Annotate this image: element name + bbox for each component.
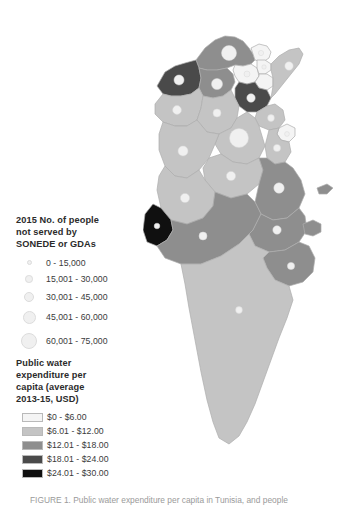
symbol-tozeur[interactable] bbox=[154, 223, 160, 229]
legend-circles-rows: 0 - 15,000 15,001 - 30,000 30,001 - 45,0… bbox=[16, 255, 144, 353]
symbol-jendouba[interactable] bbox=[174, 75, 184, 85]
legend-item-label: 60,001 - 75,000 bbox=[42, 336, 108, 346]
symbol-monastir[interactable] bbox=[285, 132, 290, 137]
symbol-sidi-bouzid[interactable] bbox=[226, 171, 235, 180]
legend-water-expenditure: Public water expenditure per capita (ave… bbox=[16, 357, 144, 480]
color-swatch-icon bbox=[22, 455, 43, 464]
legend-item-label: $6.01 - $12.00 bbox=[43, 426, 104, 436]
circle-icon bbox=[23, 311, 36, 324]
color-swatch-icon bbox=[22, 469, 43, 478]
legend-item[interactable]: 30,001 - 45,000 bbox=[16, 287, 144, 306]
symbol-nabeul[interactable] bbox=[285, 62, 293, 70]
legend-item-label: 45,001 - 60,000 bbox=[42, 312, 108, 322]
symbol-medenine[interactable] bbox=[287, 262, 294, 269]
symbol-bizerte[interactable] bbox=[222, 46, 237, 61]
legend-item[interactable]: $24.01 - $30.00 bbox=[16, 466, 144, 480]
circle-icon bbox=[25, 275, 33, 283]
color-swatch-icon bbox=[22, 413, 43, 422]
symbol-sfax[interactable] bbox=[274, 183, 284, 193]
tunisia-choropleth-map[interactable] bbox=[143, 8, 349, 480]
legend-item[interactable]: $12.01 - $18.00 bbox=[16, 438, 144, 452]
legend-item[interactable]: $18.01 - $24.00 bbox=[16, 452, 144, 466]
circle-symbol-slot bbox=[16, 311, 42, 324]
symbol-zaghouan[interactable] bbox=[247, 94, 255, 102]
circle-symbol-slot bbox=[16, 292, 42, 302]
symbol-kef[interactable] bbox=[173, 106, 182, 115]
figure-container: 2015 No. of people not served by SONEDE … bbox=[0, 0, 349, 505]
color-swatch-icon bbox=[22, 441, 43, 450]
legend-item-label: $18.01 - $24.00 bbox=[43, 454, 109, 464]
symbol-tataouine[interactable] bbox=[236, 307, 243, 314]
symbol-manouba[interactable] bbox=[244, 71, 250, 77]
map-svg bbox=[143, 8, 349, 480]
symbol-tunis[interactable] bbox=[262, 65, 266, 69]
circle-icon bbox=[27, 260, 32, 265]
circle-symbol-slot bbox=[16, 333, 42, 349]
legend-item-label: 15,001 - 30,000 bbox=[42, 274, 108, 284]
legend-item-label: $12.01 - $18.00 bbox=[43, 440, 109, 450]
symbol-ariana[interactable] bbox=[258, 50, 263, 55]
circle-icon bbox=[21, 333, 37, 349]
legend-item-label: 30,001 - 45,000 bbox=[42, 292, 108, 302]
symbol-gafsa[interactable] bbox=[180, 193, 189, 202]
symbol-gabes[interactable] bbox=[273, 226, 281, 234]
legend-choropleth-rows: $0 - $6.00 $6.01 - $12.00 $12.01 - $18.0… bbox=[16, 410, 144, 480]
legend-item[interactable]: 45,001 - 60,000 bbox=[16, 306, 144, 328]
legend-item-label: $0 - $6.00 bbox=[43, 412, 87, 422]
symbol-siliana[interactable] bbox=[213, 109, 221, 117]
legend-item[interactable]: 60,001 - 75,000 bbox=[16, 328, 144, 353]
symbol-beja[interactable] bbox=[212, 79, 223, 90]
symbol-sousse[interactable] bbox=[268, 115, 275, 122]
figure-caption: FIGURE 1. Public water expenditure per c… bbox=[30, 495, 340, 505]
symbol-mahdia[interactable] bbox=[273, 144, 280, 151]
color-swatch-icon bbox=[22, 427, 43, 436]
legend-population-not-served: 2015 No. of people not served by SONEDE … bbox=[16, 214, 144, 353]
legend-item-label: 0 - 15,000 bbox=[42, 258, 86, 268]
legend-item[interactable]: $6.01 - $12.00 bbox=[16, 424, 144, 438]
legend-circles-title: 2015 No. of people not served by SONEDE … bbox=[16, 214, 144, 250]
circle-symbol-slot bbox=[16, 260, 42, 265]
legend-choropleth-title: Public water expenditure per capita (ave… bbox=[16, 357, 144, 405]
circle-icon bbox=[24, 292, 34, 302]
circle-symbol-slot bbox=[16, 275, 42, 283]
symbol-kairouan[interactable] bbox=[230, 129, 249, 148]
symbol-kebili[interactable] bbox=[199, 232, 207, 240]
legend-item-label: $24.01 - $30.00 bbox=[43, 468, 109, 478]
legend-item[interactable]: 0 - 15,000 bbox=[16, 255, 144, 270]
region-nabeul[interactable] bbox=[271, 48, 303, 98]
region-kerkennah[interactable] bbox=[317, 184, 333, 194]
symbol-kasserine[interactable] bbox=[178, 146, 188, 156]
legend-item[interactable]: $0 - $6.00 bbox=[16, 410, 144, 424]
legend-item[interactable]: 15,001 - 30,000 bbox=[16, 270, 144, 287]
